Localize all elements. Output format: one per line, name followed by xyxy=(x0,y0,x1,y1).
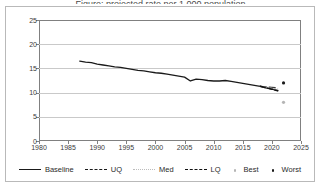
series-line-baseline xyxy=(80,61,278,91)
legend-swatch-med-icon xyxy=(133,166,155,174)
y-tick-label: 5 xyxy=(11,113,37,120)
legend-label: Med xyxy=(159,166,174,174)
point-marker-best xyxy=(282,101,285,104)
legend-label: Worst xyxy=(282,166,301,174)
y-tick-label: 10 xyxy=(11,89,37,96)
legend-label: Baseline xyxy=(45,166,74,174)
legend-label: UQ xyxy=(111,166,122,174)
legend-item-uq[interactable]: UQ xyxy=(85,166,122,174)
legend-swatch-lq-icon xyxy=(185,166,207,174)
legend-item-worst[interactable]: Worst xyxy=(270,166,301,174)
legend-item-best[interactable]: Best xyxy=(232,166,259,174)
legend-swatch-baseline-icon xyxy=(19,166,41,174)
point-marker-worst xyxy=(282,81,285,84)
clipped-title-remnant: Figure: projected rate per 1,000 populat… xyxy=(0,0,321,4)
legend-item-lq[interactable]: LQ xyxy=(185,166,221,174)
legend-item-baseline[interactable]: Baseline xyxy=(19,166,74,174)
data-series-layer xyxy=(39,20,301,141)
chart-figure: Figure: projected rate per 1,000 populat… xyxy=(0,0,321,187)
legend-swatch-best-icon xyxy=(232,166,240,174)
x-tick-label: 2025 xyxy=(284,144,318,151)
y-tick-label: 20 xyxy=(11,41,37,48)
chart-legend: BaselineUQMedLQBestWorst xyxy=(5,160,315,180)
legend-label: LQ xyxy=(211,166,221,174)
legend-swatch-uq-icon xyxy=(85,166,107,174)
y-tick-label: 25 xyxy=(11,17,37,24)
y-tick-label: 15 xyxy=(11,65,37,72)
legend-label: Best xyxy=(244,166,259,174)
axes-layer: 0510152025 19801985199019952000200520102… xyxy=(39,20,301,141)
legend-swatch-worst-icon xyxy=(270,166,278,174)
chart-card: 0510152025 19801985199019952000200520102… xyxy=(5,6,315,182)
legend-item-med[interactable]: Med xyxy=(133,166,174,174)
